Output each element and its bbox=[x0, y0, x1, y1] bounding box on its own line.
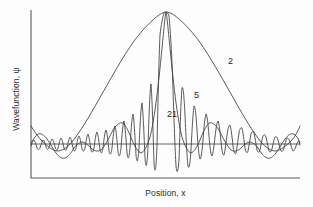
curve-label-21: 21 bbox=[167, 109, 177, 119]
wavefunction-figure: Wavefunction, ψ Position, x 2 5 21 bbox=[0, 0, 313, 207]
curve-label-2: 2 bbox=[228, 56, 233, 66]
x-axis-label: Position, x bbox=[31, 188, 300, 198]
curve-n21 bbox=[31, 12, 300, 172]
curve-n2 bbox=[31, 12, 300, 151]
y-axis-label: Wavefunction, ψ bbox=[11, 45, 21, 153]
plot-canvas bbox=[0, 0, 313, 207]
curve-label-5: 5 bbox=[194, 90, 199, 100]
curve-n5 bbox=[31, 12, 300, 158]
axis-frame bbox=[31, 10, 300, 178]
